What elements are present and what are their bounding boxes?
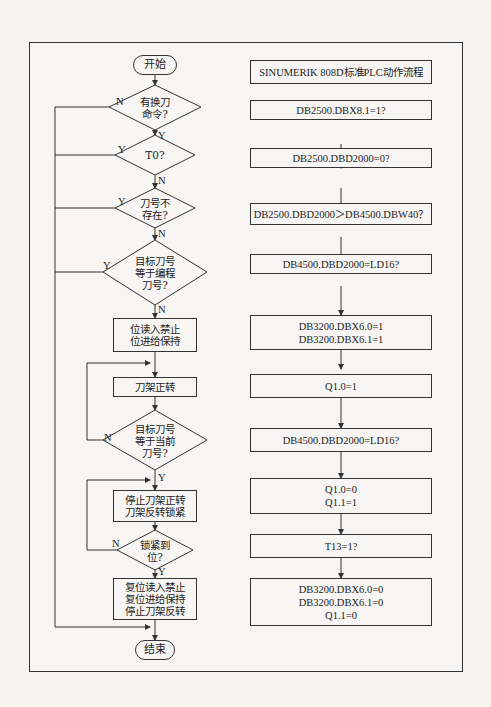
process-line: 停止刀架正转: [125, 494, 185, 506]
d6-yes-label: Y: [158, 566, 166, 577]
step-line: DB2500.DBD2000=0?: [292, 152, 389, 165]
decision-line: 目标刀号: [135, 255, 175, 267]
step-6: Q1.0=1: [250, 374, 432, 398]
process-line: 刀架正转: [135, 381, 175, 393]
step-line: T13=1?: [325, 540, 358, 553]
step-line: DB2500.DBX8.1=1?: [296, 104, 385, 117]
step-line: DB2500.DBD2000＞DB4500.DBW40？: [254, 208, 429, 221]
d4-no-label: N: [158, 304, 166, 315]
title-text: SINUMERIK 808D标准PLC动作流程: [259, 66, 423, 79]
decision-line: 位?: [147, 551, 163, 563]
d6-no-label: N: [112, 538, 120, 549]
decision-target-equals-programmed: 目标刀号 等于编程 刀号?: [115, 253, 195, 293]
step-4: DB4500.DBD2000=LD16?: [250, 254, 432, 274]
process-stop-forward-reverse-lock: 停止刀架正转 刀架反转锁紧: [113, 490, 197, 522]
step-9: T13=1?: [250, 534, 432, 558]
start-label: 开始: [144, 59, 166, 71]
step-line: DB4500.DBD2000=LD16?: [283, 258, 399, 271]
process-read-inhibit-feed-hold: 位读入禁止 位进给保持: [113, 318, 197, 352]
d3-yes-label: Y: [118, 196, 126, 207]
end-terminal: 结束: [135, 640, 175, 660]
d5-yes-label: Y: [158, 472, 166, 483]
process-reset-and-stop-reverse: 复位读入禁止 复位进给保持 停止刀架反转: [113, 578, 197, 620]
step-line: DB3200.DBX6.0=0: [299, 583, 384, 596]
d1-yes-label: Y: [158, 130, 166, 141]
step-8: Q1.0=0 Q1.1=1: [250, 478, 432, 514]
decision-locked-in-place: 锁紧到 位?: [120, 537, 190, 565]
decision-line: 目标刀号: [135, 423, 175, 435]
d2-no-label: N: [158, 175, 166, 186]
decision-line: 等于当前: [135, 435, 175, 447]
step-7: DB4500.DBD2000=LD16?: [250, 428, 432, 452]
decision-line: 刀号?: [142, 447, 168, 459]
step-line: DB3200.DBX6.1=0: [299, 596, 384, 609]
step-1: DB2500.DBX8.1=1?: [250, 100, 432, 120]
step-10: DB3200.DBX6.0=0 DB3200.DBX6.1=0 Q1.1=0: [250, 578, 432, 626]
decision-t0: T0?: [115, 147, 195, 163]
step-line: Q1.1=1: [325, 496, 357, 509]
step-line: Q1.1=0: [325, 609, 357, 622]
decision-line: 锁紧到: [140, 539, 170, 551]
right-flow-title: SINUMERIK 808D标准PLC动作流程: [250, 60, 432, 84]
process-line: 位读入禁止: [130, 323, 180, 335]
decision-line: 命令?: [142, 108, 168, 120]
step-3: DB2500.DBD2000＞DB4500.DBW40？: [250, 203, 432, 225]
d2-yes-label: Y: [118, 144, 126, 155]
step-line: DB3200.DBX6.1=1: [299, 333, 384, 346]
step-5: DB3200.DBX6.0=1 DB3200.DBX6.1=1: [250, 315, 432, 350]
decision-line: 存在?: [142, 209, 168, 221]
decision-line: 等于编程: [135, 267, 175, 279]
step-line: DB4500.DBD2000=LD16?: [283, 434, 399, 447]
process-line: 刀架反转锁紧: [125, 506, 185, 518]
decision-line: 刀号?: [142, 279, 168, 291]
d1-no-label: N: [116, 96, 124, 107]
decision-line: 刀号不: [140, 197, 170, 209]
decision-tool-change-command: 有换刀 命令?: [115, 92, 195, 124]
decision-tool-not-exist: 刀号不 存在?: [115, 195, 195, 223]
decision-line: 有换刀: [140, 96, 170, 108]
d4-yes-label: Y: [103, 260, 111, 271]
process-turret-forward: 刀架正转: [113, 377, 197, 397]
decision-target-equals-current: 目标刀号 等于当前 刀号?: [115, 421, 195, 461]
process-line: 停止刀架反转: [125, 605, 185, 617]
step-line: Q1.0=0: [325, 483, 357, 496]
step-2: DB2500.DBD2000=0?: [250, 148, 432, 168]
start-terminal: 开始: [133, 55, 177, 75]
process-line: 位进给保持: [130, 335, 180, 347]
decision-line: T0?: [145, 149, 164, 161]
process-line: 复位进给保持: [125, 593, 185, 605]
process-line: 复位读入禁止: [125, 581, 185, 593]
step-line: DB3200.DBX6.0=1: [299, 320, 384, 333]
end-label: 结束: [144, 644, 166, 656]
d5-no-label: N: [104, 432, 112, 443]
step-line: Q1.0=1: [325, 380, 357, 393]
d3-no-label: N: [158, 228, 166, 239]
